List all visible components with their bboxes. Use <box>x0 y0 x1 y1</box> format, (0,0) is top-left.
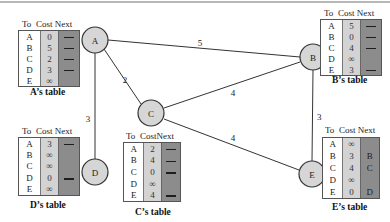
to-cell: C <box>321 43 342 53</box>
next-cell <box>59 54 79 64</box>
header-cost: Cost <box>140 131 157 141</box>
to-cell: D <box>321 54 342 64</box>
to-cell: D <box>19 173 40 183</box>
table-header: To Cost Next <box>324 8 374 18</box>
node-label-d: D <box>92 168 99 178</box>
cost-cell: ∞ <box>41 76 58 86</box>
next-cell <box>162 144 180 154</box>
next-cell <box>361 139 379 149</box>
node-label-c: C <box>148 109 154 119</box>
cost-cell: 4 <box>343 43 360 53</box>
table-caption: D’s table <box>30 200 66 210</box>
cost-cell: 2 <box>144 144 160 154</box>
table-caption: E’s table <box>332 202 367 212</box>
cost-cell: 4 <box>144 190 160 200</box>
edge-label-c-b: 4 <box>231 88 236 98</box>
next-column <box>360 20 381 75</box>
table-header: To Cost Next <box>22 126 72 136</box>
header-next: Next <box>55 19 73 29</box>
to-column: ABCDE <box>19 138 40 195</box>
table-body: ABCDE0523∞ <box>18 30 80 87</box>
edge-b-e <box>312 70 313 161</box>
routing-table-a: To Cost Next ABCDE0523∞ A’s table <box>18 19 80 101</box>
cost-cell: 0 <box>343 187 359 197</box>
to-cell: D <box>19 65 40 75</box>
next-column: BCD <box>360 138 379 198</box>
cost-cell: ∞ <box>41 150 58 160</box>
to-cell: E <box>321 65 342 75</box>
cost-cell: ∞ <box>41 161 58 171</box>
next-cell <box>59 32 79 42</box>
to-cell: C <box>323 163 342 173</box>
edge-label-a-d: 3 <box>86 114 91 124</box>
cost-cell: ∞ <box>343 54 360 64</box>
next-cell <box>162 155 180 165</box>
cost-cell: 4 <box>144 155 160 165</box>
next-cell <box>162 167 180 177</box>
table-caption: A’s table <box>30 87 65 97</box>
next-cell: B <box>361 151 379 161</box>
edge-label-a-c: 2 <box>123 75 128 85</box>
to-column: ABCDE <box>323 138 342 198</box>
next-cell <box>361 54 381 64</box>
cost-column: 3∞∞0∞ <box>40 138 58 195</box>
node-label-a: A <box>92 36 99 46</box>
cost-column: 504∞3 <box>342 20 360 75</box>
edge-label-b-e: 3 <box>317 112 322 122</box>
header-to: To <box>22 126 31 136</box>
node-label-e: E <box>309 170 315 180</box>
header-cost: Cost <box>338 8 355 18</box>
next-cell <box>361 175 379 185</box>
routing-table-c: To CostNext ABCDE240∞4 C’s table <box>123 131 185 221</box>
edge-a-b <box>108 40 300 57</box>
cost-cell: ∞ <box>343 139 359 149</box>
next-column <box>58 138 79 195</box>
edge-labels: 5 2 3 4 4 3 <box>86 38 322 143</box>
header-to: To <box>22 19 31 29</box>
cost-cell: 5 <box>41 43 58 53</box>
next-column <box>58 31 79 86</box>
routing-table-b: To Cost Next ABCDE504∞3 B’s table <box>320 8 384 90</box>
cost-cell: ∞ <box>41 184 58 194</box>
cost-cell: 4 <box>343 163 359 173</box>
nodes <box>82 27 326 187</box>
to-cell: A <box>323 139 342 149</box>
cost-column: 240∞4 <box>143 143 160 201</box>
cost-cell: 0 <box>41 173 58 183</box>
to-cell: C <box>19 54 40 64</box>
cost-cell: 0 <box>144 167 160 177</box>
to-cell: A <box>321 21 342 31</box>
cost-cell: 2 <box>41 54 58 64</box>
next-cell <box>162 179 180 189</box>
header-cost: Cost <box>36 19 53 29</box>
to-cell: D <box>124 179 143 189</box>
to-column: ABCDE <box>124 143 143 201</box>
cost-cell: 3 <box>343 65 360 75</box>
cost-cell: 0 <box>343 32 360 42</box>
to-cell: B <box>124 155 143 165</box>
cost-cell: ∞ <box>144 179 160 189</box>
next-cell: C <box>361 163 379 173</box>
to-cell: A <box>19 139 40 149</box>
table-header: To Cost Next <box>325 125 375 135</box>
to-column: ABCDE <box>321 20 342 75</box>
to-cell: B <box>19 150 40 160</box>
table-body: ABCDE504∞3 <box>320 19 382 76</box>
to-cell: E <box>124 190 143 200</box>
next-column <box>161 143 180 201</box>
next-cell <box>59 65 79 75</box>
to-cell: D <box>323 175 342 185</box>
next-cell <box>361 32 381 42</box>
cost-cell: 3 <box>343 151 359 161</box>
header-next: Next <box>156 131 174 141</box>
edge-label-c-e: 4 <box>231 133 236 143</box>
to-cell: B <box>321 32 342 42</box>
header-next: Next <box>55 126 73 136</box>
node-label-b: B <box>310 53 316 63</box>
to-column: ABCDE <box>19 31 40 86</box>
next-cell <box>59 150 79 160</box>
header-to: To <box>126 131 135 141</box>
to-cell: E <box>19 76 40 86</box>
cost-cell: 5 <box>343 21 360 31</box>
to-cell: A <box>19 32 40 42</box>
